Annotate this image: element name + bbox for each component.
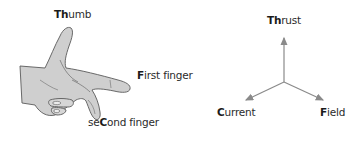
thumb-label: Thumb (54, 8, 91, 20)
left-hand-illustration (20, 27, 130, 119)
force-axes (246, 38, 323, 100)
first-finger-label: First finger (137, 69, 193, 81)
field-label: Field (320, 106, 345, 118)
field-arrow (284, 82, 323, 100)
hand-outline (20, 27, 130, 119)
thrust-label: Thrust (267, 14, 301, 26)
current-label: Current (217, 106, 255, 118)
second-finger-label: seCond finger (88, 116, 159, 128)
current-arrow (246, 82, 284, 100)
